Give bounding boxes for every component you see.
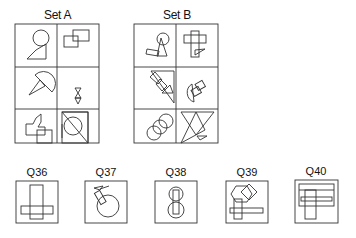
- q40-figure: [295, 180, 338, 223]
- puzzle-figures: [0, 0, 356, 238]
- q39-label: Q39: [225, 166, 269, 178]
- q36-label: Q36: [15, 166, 59, 178]
- q37-figure: [85, 181, 127, 223]
- q38-figure: [155, 181, 197, 223]
- q37-label: Q37: [84, 166, 128, 178]
- q39-figure: [226, 181, 268, 223]
- q36-figure: [16, 181, 58, 223]
- set-b-grid: [134, 24, 218, 143]
- q38-label: Q38: [154, 166, 198, 178]
- set-a-grid: [15, 24, 99, 143]
- q40-label: Q40: [294, 165, 338, 177]
